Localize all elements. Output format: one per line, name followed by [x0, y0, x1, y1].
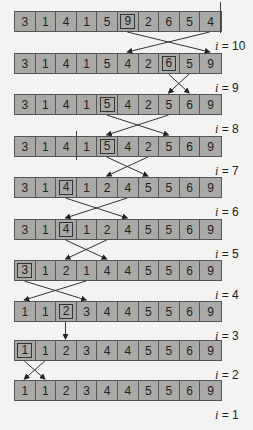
boundary-line — [220, 2, 221, 33]
swap-arrows — [0, 0, 253, 430]
boundary-line — [76, 131, 77, 160]
